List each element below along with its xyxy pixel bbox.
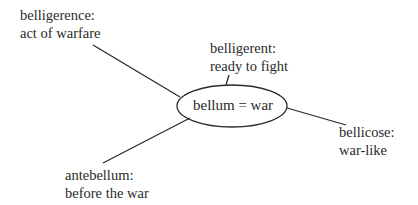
connector-belligerent [226,75,229,85]
connector-antebellum [103,118,190,163]
node-definition: war-like [339,141,395,159]
connector-belligerence [93,45,180,97]
connector-bellicose [287,108,346,125]
node-belligerence: belligerence: act of warfare [20,6,101,42]
node-term: belligerent: [210,39,288,57]
node-term: bellicose: [339,123,395,141]
node-bellicose: bellicose: war-like [339,123,395,159]
node-term: antebellum: [65,166,149,184]
node-antebellum: antebellum: before the war [65,166,149,202]
node-definition: before the war [65,184,149,202]
node-belligerent: belligerent: ready to fight [210,39,288,75]
node-term: belligerence: [20,6,101,24]
node-definition: ready to fight [210,57,288,75]
node-definition: act of warfare [20,24,101,42]
center-concept: bellum = war [193,97,273,114]
